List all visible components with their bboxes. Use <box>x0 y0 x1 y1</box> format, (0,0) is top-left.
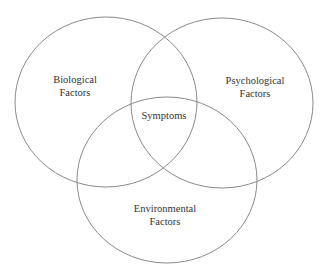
biological-label-line1: Biological <box>53 73 97 86</box>
symptoms-label: Symptoms <box>142 109 187 122</box>
environmental-circle <box>77 97 257 263</box>
biological-factors-label: Biological Factors <box>53 73 97 99</box>
psychological-factors-label: Psychological Factors <box>226 74 285 100</box>
psychological-label-line2: Factors <box>226 87 285 100</box>
biological-label-line2: Factors <box>53 86 97 99</box>
environmental-label-line1: Environmental <box>134 202 196 215</box>
environmental-factors-label: Environmental Factors <box>134 202 196 228</box>
psychological-circle <box>131 18 313 188</box>
environmental-label-line2: Factors <box>134 215 196 228</box>
symptoms-label-text: Symptoms <box>142 109 187 122</box>
psychological-label-line1: Psychological <box>226 74 285 87</box>
biological-circle <box>15 17 197 187</box>
venn-diagram <box>0 0 328 275</box>
